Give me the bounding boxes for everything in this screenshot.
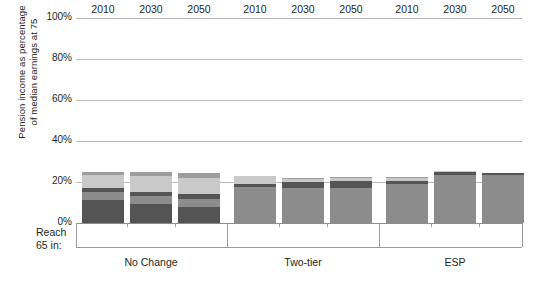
axis-row-label: Reach 65 in: [36, 226, 76, 251]
year-label-2: 2050 [169, 3, 229, 15]
axis-edge-0 [76, 223, 77, 247]
bar-6 [386, 177, 428, 223]
axis-edge-1 [522, 223, 523, 247]
bar-2 [178, 173, 220, 223]
bar-segment [130, 196, 172, 203]
bar-segment [234, 176, 276, 184]
bar-segment [130, 204, 172, 223]
bar-8 [482, 173, 524, 223]
year-label-8: 2050 [473, 3, 533, 15]
bar-segment [330, 181, 372, 188]
bar-5 [330, 177, 372, 223]
y-tick-label-40: 40% [26, 134, 72, 145]
group-label-two-tier: Two-tier [243, 256, 363, 268]
bar-series [76, 18, 522, 223]
bar-segment [82, 200, 124, 223]
y-tick-label-60: 60% [26, 93, 72, 104]
bar-segment [386, 184, 428, 223]
bar-1 [130, 172, 172, 223]
axis-group-separator-0 [227, 223, 228, 247]
axis-tick-5 [479, 223, 480, 227]
bar-segment [82, 192, 124, 200]
x-axis-box [76, 223, 522, 248]
bar-segment [82, 175, 124, 188]
bar-segment [130, 176, 172, 192]
axis-tick-4 [431, 223, 432, 227]
y-axis-title: Pension income as percentage of median e… [16, 0, 40, 172]
year-label-5: 2050 [321, 3, 381, 15]
bar-3 [234, 176, 276, 223]
bar-segment [434, 175, 476, 223]
axis-group-separator-1 [379, 223, 380, 247]
bar-segment [330, 188, 372, 223]
group-label-no-change: No Change [91, 256, 211, 268]
axis-tick-0 [127, 223, 128, 227]
axis-tick-2 [279, 223, 280, 227]
axis-tick-3 [327, 223, 328, 227]
group-label-esp: ESP [395, 256, 515, 268]
bar-segment [178, 207, 220, 223]
axis-tick-1 [175, 223, 176, 227]
bar-7 [434, 171, 476, 223]
y-tick-label-20: 20% [26, 175, 72, 186]
plot-area [76, 18, 522, 223]
chart-container: Pension income as percentage of median e… [0, 0, 536, 287]
bar-segment [178, 178, 220, 194]
y-tick-label-80: 80% [26, 52, 72, 63]
y-tick-label-100: 100% [26, 11, 72, 22]
bar-0 [82, 172, 124, 223]
bar-segment [282, 188, 324, 223]
bar-4 [282, 178, 324, 223]
bar-segment [178, 199, 220, 206]
bar-segment [482, 175, 524, 223]
bar-segment [234, 187, 276, 223]
